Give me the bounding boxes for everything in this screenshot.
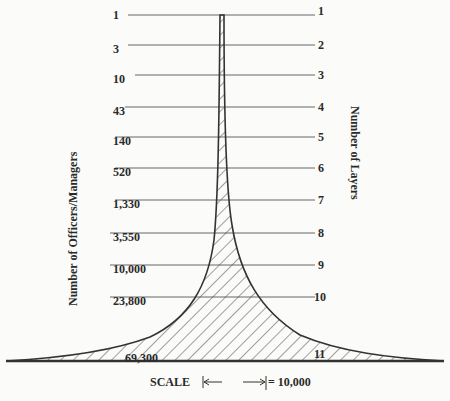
scale-marker: [203, 376, 266, 390]
officer-count-label: 3,550: [113, 231, 140, 243]
officer-count-label: 10,000: [113, 263, 146, 275]
layer-number-label: 5: [318, 131, 324, 143]
layer-number-label: 11: [314, 348, 325, 360]
officer-count-label: 23,800: [113, 295, 146, 307]
officer-count-label: 140: [113, 135, 131, 147]
scale-value: = 10,000: [268, 376, 311, 388]
layer-number-label: 10: [314, 291, 326, 303]
officer-count-label: 1,330: [113, 198, 140, 210]
officer-count-label: 69,300: [125, 352, 158, 364]
layer-number-label: 7: [318, 194, 324, 206]
layer-number-label: 9: [318, 259, 324, 271]
layer-number-label: 8: [318, 227, 324, 239]
layer-number-label: 1: [318, 5, 324, 17]
layer-number-label: 2: [318, 39, 324, 51]
officer-count-label: 10: [113, 73, 125, 85]
left-axis-label: Number of Officers/Managers: [66, 152, 81, 306]
layer-number-label: 3: [318, 69, 324, 81]
scale-label: SCALE: [150, 376, 190, 388]
officer-count-label: 3: [113, 43, 119, 55]
layer-number-label: 4: [318, 101, 324, 113]
right-axis-label: Number of Layers: [347, 106, 362, 200]
layer-number-label: 6: [318, 162, 324, 174]
officer-count-label: 520: [113, 166, 131, 178]
officer-count-label: 1: [113, 9, 119, 21]
officer-count-label: 43: [113, 105, 125, 117]
